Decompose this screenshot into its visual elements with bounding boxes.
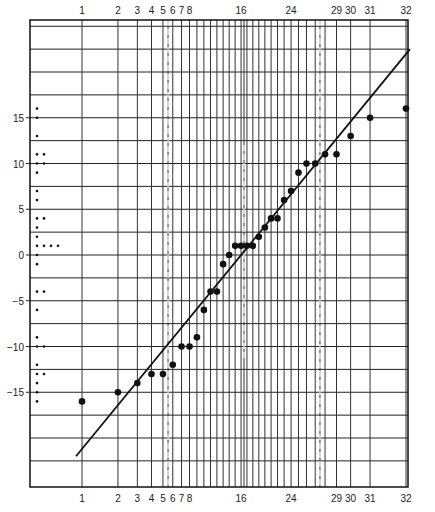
y-tick-label: −5 bbox=[13, 296, 25, 307]
top-tick-label: 30 bbox=[345, 5, 357, 16]
dot-plot-point bbox=[36, 235, 39, 238]
data-point bbox=[256, 233, 263, 240]
dot-plot-point bbox=[36, 382, 39, 385]
top-tick-label: 4 bbox=[149, 5, 155, 16]
y-tick-label: −15 bbox=[7, 387, 24, 398]
dot-plot-point bbox=[36, 364, 39, 367]
dot-plot-point bbox=[36, 107, 39, 110]
dot-plot-point bbox=[36, 345, 39, 348]
dot-plot-point bbox=[36, 135, 39, 138]
dot-plot-point bbox=[57, 245, 60, 248]
top-tick-label: 3 bbox=[135, 5, 141, 16]
data-point bbox=[148, 371, 155, 378]
data-point bbox=[274, 215, 281, 222]
data-point bbox=[194, 334, 201, 341]
bottom-tick-label: 32 bbox=[400, 493, 412, 504]
data-point bbox=[268, 215, 275, 222]
data-point bbox=[403, 105, 410, 112]
data-point bbox=[303, 160, 310, 167]
data-point bbox=[115, 389, 122, 396]
dot-plot-point bbox=[36, 162, 39, 165]
data-point bbox=[367, 114, 374, 121]
bottom-tick-label: 31 bbox=[364, 493, 376, 504]
dot-plot-point bbox=[36, 373, 39, 376]
y-tick-label: 15 bbox=[13, 113, 25, 124]
dot-plot-point bbox=[43, 290, 46, 293]
bottom-tick-label: 30 bbox=[345, 493, 357, 504]
data-point bbox=[214, 288, 221, 295]
dot-plot-point bbox=[36, 263, 39, 266]
top-axis-ticks: 12345678162429303132 bbox=[79, 5, 412, 16]
data-point bbox=[333, 151, 340, 158]
vertical-gridlines bbox=[82, 20, 406, 487]
bottom-tick-label: 1 bbox=[79, 493, 85, 504]
top-tick-label: 16 bbox=[235, 5, 247, 16]
dot-plot-point bbox=[36, 400, 39, 403]
data-point bbox=[169, 362, 176, 369]
dot-plot-point bbox=[43, 162, 46, 165]
data-point bbox=[226, 252, 233, 259]
dot-plot-point bbox=[36, 153, 39, 156]
top-tick-label: 24 bbox=[286, 5, 298, 16]
data-point bbox=[232, 243, 239, 250]
fit-line bbox=[76, 49, 410, 456]
bottom-tick-label: 2 bbox=[115, 493, 121, 504]
top-tick-label: 8 bbox=[187, 5, 193, 16]
data-point bbox=[220, 261, 227, 268]
data-point bbox=[201, 307, 208, 314]
dot-plot-point bbox=[50, 245, 53, 248]
dot-plot-point bbox=[36, 217, 39, 220]
dot-plot-point bbox=[36, 391, 39, 394]
data-point bbox=[288, 188, 295, 195]
top-tick-label: 1 bbox=[79, 5, 85, 16]
y-tick-label: 0 bbox=[18, 250, 24, 261]
dot-plot-point bbox=[36, 171, 39, 174]
data-point bbox=[262, 224, 269, 231]
data-point bbox=[281, 197, 288, 204]
bottom-tick-label: 16 bbox=[235, 493, 247, 504]
dot-plot-point bbox=[36, 290, 39, 293]
dot-plot-point bbox=[43, 345, 46, 348]
data-point bbox=[250, 243, 257, 250]
bottom-tick-label: 3 bbox=[135, 493, 141, 504]
top-tick-label: 7 bbox=[179, 5, 185, 16]
top-tick-label: 31 bbox=[364, 5, 376, 16]
dot-plot-point bbox=[36, 116, 39, 119]
data-point bbox=[295, 169, 302, 176]
data-point bbox=[244, 243, 251, 250]
dot-plot-point bbox=[36, 254, 39, 257]
dot-plot-point bbox=[36, 190, 39, 193]
data-point bbox=[178, 343, 185, 350]
top-tick-label: 6 bbox=[170, 5, 176, 16]
bottom-axis-ticks: 12345678162429303132 bbox=[79, 493, 412, 504]
dot-plot-point bbox=[43, 153, 46, 156]
dot-plot-point bbox=[36, 226, 39, 229]
normal-probability-plot: 12345678162429303132 1234567816242930313… bbox=[0, 0, 435, 512]
top-tick-label: 29 bbox=[331, 5, 343, 16]
bottom-tick-label: 7 bbox=[179, 493, 185, 504]
top-tick-label: 2 bbox=[115, 5, 121, 16]
y-axis-ticks: 151050−5−10−15 bbox=[7, 113, 30, 399]
bottom-tick-label: 6 bbox=[170, 493, 176, 504]
data-point bbox=[238, 243, 245, 250]
dot-plot-point bbox=[43, 245, 46, 248]
y-tick-label: 10 bbox=[13, 159, 25, 170]
dot-plot-point bbox=[36, 336, 39, 339]
data-point bbox=[79, 398, 86, 405]
plot-frame bbox=[30, 20, 408, 487]
dot-plot-point bbox=[43, 217, 46, 220]
horizontal-gridlines bbox=[30, 26, 408, 461]
top-tick-label: 5 bbox=[160, 5, 166, 16]
dot-plot-point bbox=[43, 373, 46, 376]
data-point bbox=[186, 343, 193, 350]
top-tick-label: 32 bbox=[400, 5, 412, 16]
bottom-tick-label: 5 bbox=[160, 493, 166, 504]
dot-plot-point bbox=[36, 199, 39, 202]
bottom-tick-label: 24 bbox=[286, 493, 298, 504]
bottom-tick-label: 8 bbox=[187, 493, 193, 504]
bottom-tick-label: 29 bbox=[331, 493, 343, 504]
bottom-tick-label: 4 bbox=[149, 493, 155, 504]
y-tick-label: 5 bbox=[18, 204, 24, 215]
data-point bbox=[347, 133, 354, 140]
data-point bbox=[134, 380, 141, 387]
